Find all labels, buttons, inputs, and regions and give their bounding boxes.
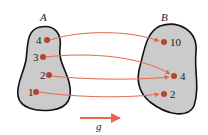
point-b-10: [161, 39, 167, 45]
point-a-2: [46, 72, 52, 78]
point-a-4: [44, 37, 50, 43]
set-b-label: B: [161, 11, 168, 23]
point-a-1: [33, 89, 39, 95]
point-b-4: [171, 73, 177, 79]
point-b-4-label: 4: [180, 70, 186, 82]
set-a-label: A: [39, 11, 47, 23]
point-b-2-label: 2: [170, 88, 176, 100]
point-a-3-label: 3: [33, 51, 39, 63]
point-a-1-label: 1: [28, 86, 34, 98]
function-label: g: [96, 120, 102, 132]
point-a-4-label: 4: [36, 34, 42, 46]
point-a-2-label: 2: [40, 69, 46, 81]
function-mapping-diagram: A B 4 3 2 1 10 4 2 g: [0, 0, 208, 135]
point-b-10-label: 10: [170, 36, 182, 48]
arrow-4-to-10: [50, 33, 159, 41]
point-b-2: [161, 91, 167, 97]
point-a-3: [40, 54, 46, 60]
